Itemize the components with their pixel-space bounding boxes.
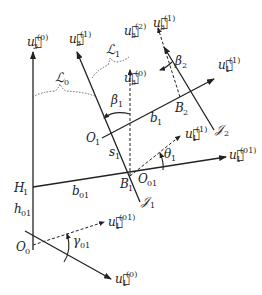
label-h1: H1 xyxy=(13,181,28,197)
svg-text:3: 3 xyxy=(33,42,38,51)
svg-text:2: 2 xyxy=(224,129,229,138)
svg-text:01: 01 xyxy=(21,209,31,218)
label-l1: ℒ1 xyxy=(106,42,120,59)
svg-text:3: 3 xyxy=(76,39,81,48)
arc-gamma01 xyxy=(64,234,69,262)
line-b01-u1-01 xyxy=(33,157,226,187)
label-u3-1-top: u⃗3(1) xyxy=(69,30,91,48)
label-gamma01: γ01 xyxy=(73,234,90,250)
svg-text:1: 1 xyxy=(118,100,123,109)
svg-text:01: 01 xyxy=(79,191,89,200)
label-u1-01-right: u⃗1(01) xyxy=(229,146,256,164)
label-u1-1-mid: u⃗1(1) xyxy=(185,125,207,143)
svg-text:1: 1 xyxy=(128,184,133,193)
svg-text:1: 1 xyxy=(115,222,120,231)
label-u1-01-bottom: u⃗1(01) xyxy=(108,213,135,231)
label-b2: B2 xyxy=(174,101,188,117)
svg-text:0: 0 xyxy=(64,78,69,87)
label-beta1: β1 xyxy=(110,93,123,109)
label-s1: s1 xyxy=(109,145,120,161)
svg-text:1: 1 xyxy=(122,279,127,288)
svg-text:01: 01 xyxy=(147,179,157,188)
label-h01: h01 xyxy=(14,202,31,218)
svg-text:β: β xyxy=(174,54,182,68)
svg-text:1: 1 xyxy=(157,118,162,127)
svg-text:1: 1 xyxy=(23,188,28,197)
label-j1: 𝒥1 xyxy=(140,194,155,210)
label-b01: b01 xyxy=(72,184,89,200)
svg-text:(01): (01) xyxy=(240,146,256,155)
label-o0: O0 xyxy=(16,240,30,256)
svg-text:2: 2 xyxy=(183,108,188,117)
svg-text:1: 1 xyxy=(95,138,100,147)
svg-text:1: 1 xyxy=(171,154,176,163)
label-u1-0-bottom: u⃗1(0) xyxy=(115,270,137,288)
svg-text:(1): (1) xyxy=(164,14,175,23)
svg-text:(0): (0) xyxy=(135,69,146,78)
label-o1: O1 xyxy=(86,131,100,147)
svg-text:1: 1 xyxy=(192,134,197,143)
arc-beta1 xyxy=(104,113,130,118)
svg-text:2: 2 xyxy=(182,61,187,70)
svg-text:3: 3 xyxy=(131,78,136,87)
kinematic-diagram: u⃗3(0) u⃗3(1) u⃗3(2) u⃗3(1) u⃗3(0) u⃗1(1… xyxy=(0,0,262,295)
label-beta2: β2 xyxy=(174,54,187,70)
label-u3-0-top: u⃗3(0) xyxy=(27,33,48,51)
svg-text:01: 01 xyxy=(80,241,90,250)
label-u3-1-right: u⃗3(1) xyxy=(153,14,175,32)
label-l0: ℒ0 xyxy=(55,70,69,87)
svg-text:β: β xyxy=(110,93,118,107)
svg-text:(0): (0) xyxy=(126,270,137,279)
label-u3-2: u⃗3(2) xyxy=(124,22,146,40)
svg-text:1: 1 xyxy=(115,50,120,59)
svg-text:1: 1 xyxy=(150,201,155,210)
svg-text:(01): (01) xyxy=(119,213,135,222)
svg-text:3: 3 xyxy=(131,31,136,40)
svg-text:0: 0 xyxy=(25,247,30,256)
label-u1-1-right: u⃗1(1) xyxy=(218,56,240,74)
svg-text:(2): (2) xyxy=(135,22,146,31)
svg-text:(0): (0) xyxy=(37,33,48,42)
label-theta1: θ1 xyxy=(164,147,176,163)
label-o01: O01 xyxy=(138,172,157,188)
label-j2: 𝒥2 xyxy=(214,122,229,138)
label-b1-link: b1 xyxy=(150,111,162,127)
svg-text:(1): (1) xyxy=(196,125,207,134)
svg-text:1: 1 xyxy=(236,155,241,164)
svg-text:(1): (1) xyxy=(80,30,91,39)
svg-text:(1): (1) xyxy=(229,56,240,65)
svg-text:3: 3 xyxy=(160,23,165,32)
joint-axis-j2 xyxy=(164,47,214,130)
label-u3-0-mid: u⃗3(0) xyxy=(124,69,146,87)
svg-text:1: 1 xyxy=(225,65,230,74)
svg-text:1: 1 xyxy=(115,152,120,161)
